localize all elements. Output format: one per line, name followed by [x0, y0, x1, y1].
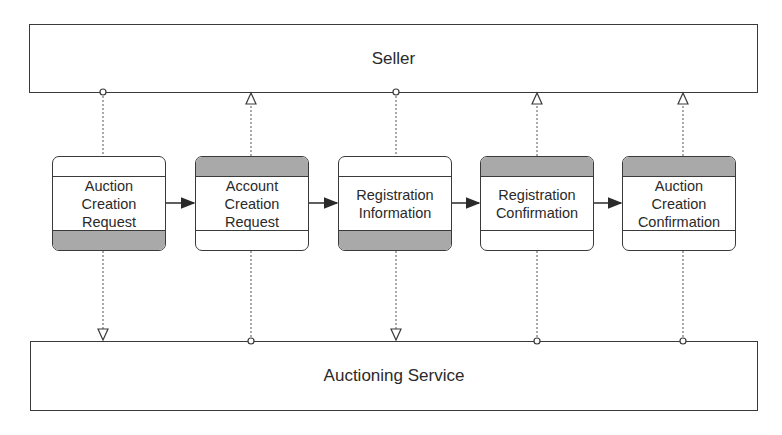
origin-circle-icon [393, 89, 399, 95]
card-top-band [53, 157, 165, 177]
card-registration-information: Registration Information [338, 156, 452, 251]
card-bottom-band-shaded [53, 230, 165, 250]
card-registration-confirmation: Registration Confirmation [480, 156, 594, 251]
arrow-down-icon [98, 329, 108, 340]
card-label: Auction Creation Confirmation [623, 176, 735, 231]
card-account-creation-request: Account Creation Request [195, 156, 309, 251]
arrow-up-icon [246, 93, 256, 104]
card-label: Registration Information [339, 176, 451, 231]
card-top-band-shaded [196, 157, 308, 177]
arrow-up-icon [678, 93, 688, 104]
card-auction-creation-request: Auction Creation Request [52, 156, 166, 251]
card-label: Registration Confirmation [481, 176, 593, 231]
arrow-up-icon [532, 93, 542, 104]
card-bottom-band-shaded [339, 230, 451, 250]
origin-circle-icon [248, 338, 254, 344]
card-label: Account Creation Request [196, 176, 308, 231]
card-bottom-band [481, 230, 593, 250]
arrow-down-icon [391, 329, 401, 340]
card-bottom-band [623, 230, 735, 250]
card-auction-creation-confirmation: Auction Creation Confirmation [622, 156, 736, 251]
origin-circle-icon [100, 89, 106, 95]
card-top-band-shaded [623, 157, 735, 177]
origin-circle-icon [680, 338, 686, 344]
card-top-band-shaded [481, 157, 593, 177]
card-top-band [339, 157, 451, 177]
origin-circle-icon [534, 338, 540, 344]
card-bottom-band [196, 230, 308, 250]
card-label: Auction Creation Request [53, 176, 165, 231]
